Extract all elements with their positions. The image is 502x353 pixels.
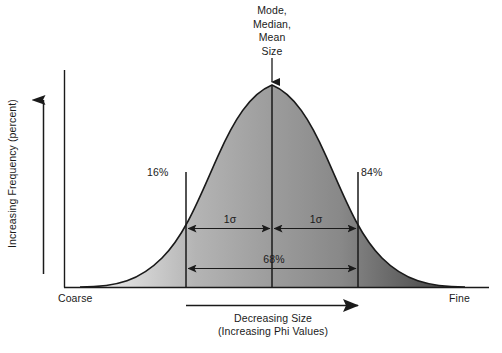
peak-statistics-label: Mode, Median, Mean Size bbox=[222, 4, 322, 58]
x-axis-label: Decreasing Size (Increasing Phi Values) bbox=[180, 312, 366, 338]
sixtyeight-percent-label: 68% bbox=[248, 253, 300, 265]
x-axis-right-end-label: Fine bbox=[449, 292, 470, 304]
percentile-84-label: 84% bbox=[361, 166, 382, 178]
percentile-16-label: 16% bbox=[147, 166, 168, 178]
grain-size-distribution-figure: Increasing Frequency (percent) Mode, Med… bbox=[0, 0, 502, 353]
x-axis-left-end-label: Coarse bbox=[58, 292, 92, 304]
sigma-left-label: 1σ bbox=[204, 213, 256, 225]
y-axis-label: Increasing Frequency (percent) bbox=[6, 108, 18, 248]
sigma-right-label: 1σ bbox=[290, 213, 342, 225]
